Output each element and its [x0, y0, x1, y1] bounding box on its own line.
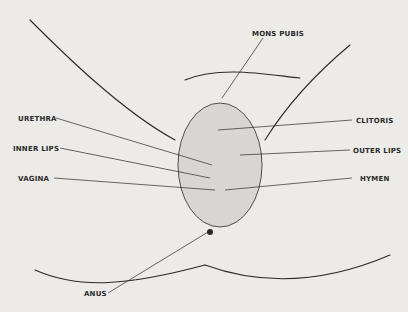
leader-anus	[108, 232, 208, 293]
label-outer-lips: OUTER LIPS	[353, 147, 401, 155]
label-anus: ANUS	[84, 290, 107, 298]
leader-mons-pubis	[222, 38, 263, 98]
lower-right-curve	[205, 255, 390, 279]
lower-left-curve	[35, 265, 205, 283]
label-hymen: HYMEN	[360, 175, 390, 183]
anatomy-diagram: MONS PUBIS URETHRA INNER LIPS VAGINA CLI…	[0, 0, 408, 312]
label-urethra: URETHRA	[18, 115, 57, 123]
label-clitoris: CLITORIS	[356, 117, 394, 125]
label-vagina: VAGINA	[18, 175, 49, 183]
central-region-schematic	[178, 103, 262, 227]
diagram-artwork	[0, 0, 408, 312]
abdomen-curve	[185, 72, 300, 80]
label-inner-lips: INNER LIPS	[13, 145, 59, 153]
label-mons-pubis: MONS PUBIS	[252, 30, 304, 38]
